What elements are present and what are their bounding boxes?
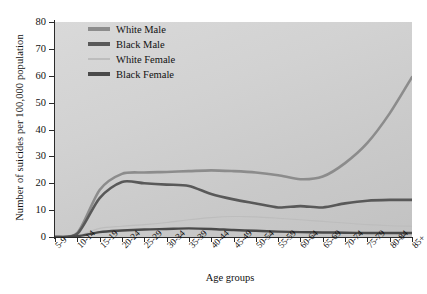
y-tick-label: 40 — [18, 125, 46, 135]
y-tick-mark — [49, 183, 54, 184]
y-axis-line — [54, 20, 55, 239]
y-tick-label: 60 — [18, 71, 46, 81]
y-tick-label: 50 — [18, 98, 46, 108]
y-tick-mark — [49, 103, 54, 104]
y-tick-label: 10 — [18, 205, 46, 215]
series-line — [55, 77, 412, 237]
legend-item: White Female — [88, 52, 218, 66]
y-tick-label: 30 — [18, 151, 46, 161]
x-axis-title: Age groups — [175, 272, 285, 283]
y-tick-mark — [49, 130, 54, 131]
legend-swatch — [88, 72, 110, 75]
legend-swatch — [88, 58, 110, 60]
y-tick-mark — [49, 237, 54, 238]
legend-swatch — [88, 42, 110, 45]
y-tick-label: 70 — [18, 44, 46, 54]
legend-label: White Female — [116, 54, 175, 65]
legend-item: White Male — [88, 22, 218, 36]
y-tick-label: 0 — [18, 232, 46, 242]
y-tick-mark — [49, 22, 54, 23]
legend-label: Black Female — [116, 69, 174, 80]
legend-label: Black Male — [116, 39, 165, 50]
legend-label: White Male — [116, 24, 166, 35]
y-tick-mark — [49, 49, 54, 50]
y-tick-label: 80 — [18, 17, 46, 27]
y-tick-mark — [49, 76, 54, 77]
y-tick-mark — [49, 156, 54, 157]
chart-legend: White MaleBlack MaleWhite FemaleBlack Fe… — [88, 22, 218, 82]
legend-item: Black Male — [88, 37, 218, 51]
y-tick-mark — [49, 210, 54, 211]
y-tick-label: 20 — [18, 178, 46, 188]
legend-item: Black Female — [88, 67, 218, 81]
legend-swatch — [88, 27, 110, 30]
x-tick-label: 85+ — [410, 233, 427, 250]
